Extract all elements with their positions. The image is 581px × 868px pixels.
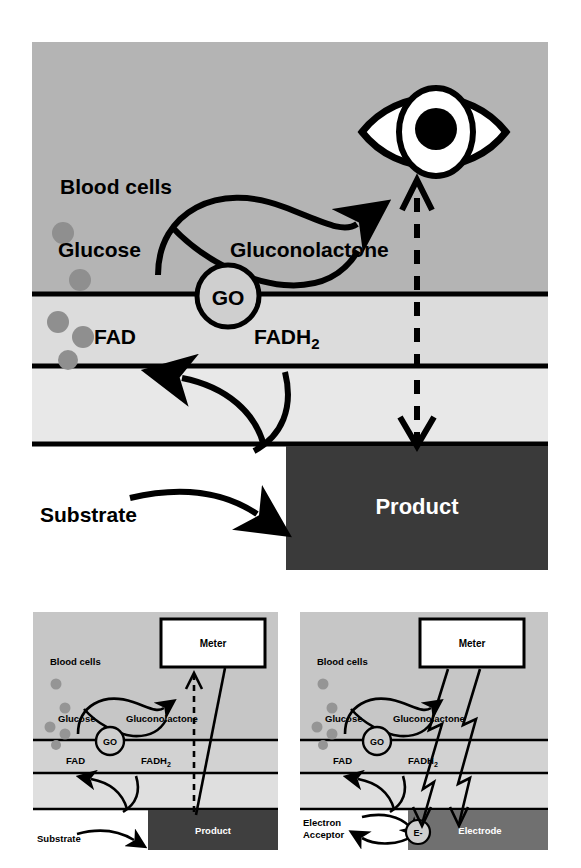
mediator-layer: [300, 773, 548, 809]
electron-acceptor-label-line1: Electron: [303, 817, 341, 828]
fadh2-label: FADH2: [141, 755, 171, 768]
blood-cell: [60, 729, 71, 740]
blood-cell: [51, 740, 61, 750]
blood-cell: [327, 729, 338, 740]
optical-meter-svg: Product Blood cells Glucose Gluconolacto…: [33, 612, 278, 850]
fad-label: FAD: [333, 755, 352, 766]
blood-cell: [327, 703, 338, 714]
blood-cell: [47, 311, 69, 333]
blood-cell: [318, 679, 329, 690]
gluconolactone-label: Gluconolactone: [230, 238, 389, 261]
meter-label: Meter: [200, 638, 227, 649]
enzyme-label: GO: [212, 286, 245, 309]
substrate-label: Substrate: [37, 833, 81, 844]
gluconolactone-label: Gluconolactone: [393, 713, 465, 724]
blood-cell: [51, 679, 62, 690]
glucose-label: Glucose: [58, 713, 96, 724]
blood-cell: [58, 350, 78, 370]
fadh2-label: FADH2: [254, 325, 320, 352]
fad-label: FAD: [66, 755, 85, 766]
amperometric-panel: Electrode Blood cells Glucose Gluconolac…: [300, 612, 548, 850]
amperometric-svg: Electrode Blood cells Glucose Gluconolac…: [300, 612, 548, 850]
main-diagram-svg: Product Blood cells Glucose Gluconolacto…: [32, 42, 548, 570]
gluconolactone-label: Gluconolactone: [126, 713, 198, 724]
product-label: Product: [375, 494, 459, 519]
blood-cell: [72, 326, 94, 348]
enzyme-label: GO: [103, 737, 117, 747]
blood-cells-label: Blood cells: [317, 656, 368, 667]
blood-cell: [312, 722, 323, 733]
electrode-label: Electrode: [458, 825, 501, 836]
glucose-label: Glucose: [58, 238, 141, 261]
substrate-label: Substrate: [40, 503, 137, 526]
fad-label: FAD: [94, 325, 136, 348]
enzyme-label: GO: [370, 737, 384, 747]
optical-meter-panel: Product Blood cells Glucose Gluconolacto…: [33, 612, 278, 850]
electron-acceptor-label-line2: Acceptor: [303, 829, 344, 840]
blood-cell: [45, 722, 56, 733]
blood-cell: [318, 740, 328, 750]
blood-cells-label: Blood cells: [50, 656, 101, 667]
blood-cell: [69, 269, 91, 291]
eye-pupil: [415, 108, 457, 150]
mediator-layer: [33, 773, 278, 809]
electron-label: E-: [414, 828, 423, 838]
blood-cell: [60, 703, 71, 714]
blood-cells-label: Blood cells: [60, 175, 172, 198]
product-label: Product: [195, 825, 232, 836]
main-diagram-panel: Product Blood cells Glucose Gluconolacto…: [32, 42, 548, 570]
meter-label: Meter: [459, 638, 486, 649]
glucose-label: Glucose: [325, 713, 363, 724]
